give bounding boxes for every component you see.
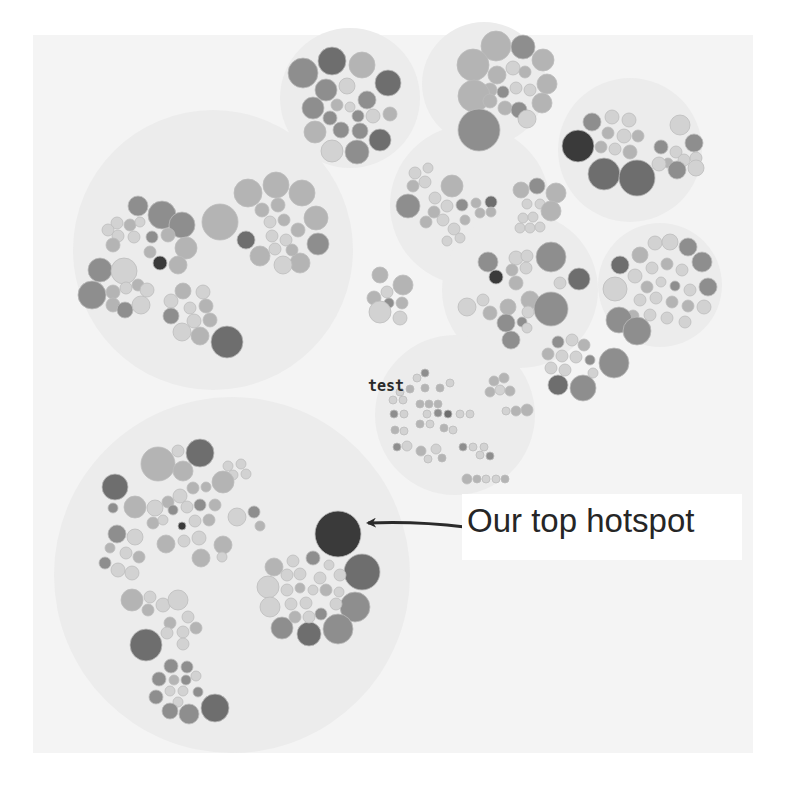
file-circle[interactable] [548, 375, 568, 395]
file-circle[interactable] [399, 396, 407, 404]
file-circle[interactable] [217, 552, 227, 562]
file-circle[interactable] [263, 172, 289, 198]
file-circle[interactable] [400, 410, 408, 418]
file-circle[interactable] [456, 199, 468, 211]
file-circle[interactable] [271, 198, 285, 212]
file-circle[interactable] [632, 130, 644, 142]
file-circle[interactable] [532, 49, 554, 71]
file-circle[interactable] [106, 285, 120, 299]
file-circle[interactable] [518, 110, 536, 128]
file-circle[interactable] [556, 350, 568, 362]
file-circle[interactable] [105, 543, 115, 553]
file-circle[interactable] [692, 252, 712, 272]
file-circle[interactable] [662, 234, 678, 250]
file-circle[interactable] [228, 508, 246, 526]
file-circle[interactable] [520, 262, 532, 274]
file-circle[interactable] [522, 306, 534, 318]
file-circle[interactable] [554, 277, 566, 289]
file-circle[interactable] [130, 629, 162, 661]
file-circle[interactable] [135, 217, 145, 227]
file-circle[interactable] [442, 236, 452, 246]
file-circle[interactable] [570, 375, 596, 401]
file-circle[interactable] [291, 223, 305, 237]
file-circle[interactable] [99, 557, 111, 569]
file-circle[interactable] [186, 439, 214, 467]
file-circle[interactable] [469, 443, 477, 451]
file-circle[interactable] [542, 348, 554, 360]
file-circle[interactable] [634, 294, 646, 306]
file-circle[interactable] [419, 176, 431, 188]
file-circle[interactable] [255, 521, 265, 531]
file-circle[interactable] [603, 277, 627, 301]
file-circle[interactable] [505, 386, 515, 396]
file-circle[interactable] [266, 230, 278, 242]
file-circle[interactable] [632, 247, 648, 263]
file-circle[interactable] [506, 61, 520, 75]
file-circle[interactable] [192, 531, 206, 545]
file-circle[interactable] [688, 160, 704, 176]
file-circle[interactable] [120, 282, 132, 294]
file-circle[interactable] [144, 591, 156, 603]
file-circle[interactable] [133, 551, 145, 563]
file-circle[interactable] [444, 410, 452, 418]
file-circle[interactable] [300, 597, 312, 609]
file-circle[interactable] [193, 687, 203, 697]
file-circle[interactable] [182, 611, 194, 623]
file-circle[interactable] [191, 671, 201, 681]
file-circle[interactable] [358, 91, 376, 109]
file-circle[interactable] [679, 238, 697, 256]
file-circle[interactable] [393, 311, 407, 325]
file-circle[interactable] [661, 258, 673, 270]
file-circle[interactable] [172, 445, 184, 457]
file-circle[interactable] [349, 52, 375, 78]
file-circle[interactable] [248, 506, 260, 518]
file-circle[interactable] [297, 622, 321, 646]
file-circle[interactable] [668, 161, 686, 179]
file-circle[interactable] [352, 110, 364, 122]
file-circle[interactable] [500, 299, 516, 315]
file-circle[interactable] [471, 198, 481, 208]
file-circle[interactable] [457, 49, 489, 81]
file-circle[interactable] [334, 587, 344, 597]
file-circle[interactable] [460, 215, 470, 225]
file-circle[interactable] [676, 264, 688, 276]
file-circle[interactable] [456, 410, 464, 418]
file-circle[interactable] [178, 686, 188, 696]
file-circle[interactable] [670, 115, 690, 135]
file-circle[interactable] [164, 294, 178, 308]
file-circle[interactable] [375, 70, 401, 96]
file-circle[interactable] [344, 554, 380, 590]
file-circle[interactable] [192, 549, 210, 567]
file-circle[interactable] [323, 111, 337, 125]
file-circle[interactable] [315, 79, 337, 101]
file-circle[interactable] [429, 192, 441, 204]
file-circle[interactable] [436, 384, 444, 392]
file-circle[interactable] [255, 203, 269, 217]
file-circle[interactable] [178, 522, 186, 530]
file-circle[interactable] [177, 626, 189, 638]
file-circle[interactable] [682, 300, 694, 312]
file-circle[interactable] [237, 231, 255, 249]
file-circle[interactable] [562, 130, 594, 162]
file-circle[interactable] [201, 694, 229, 722]
file-circle[interactable] [475, 208, 485, 218]
file-circle[interactable] [511, 406, 521, 416]
file-circle[interactable] [209, 499, 221, 511]
file-circle[interactable] [287, 555, 299, 567]
file-circle[interactable] [189, 515, 201, 527]
file-circle[interactable] [446, 379, 454, 387]
file-circle[interactable] [459, 443, 467, 451]
file-circle[interactable] [485, 196, 497, 208]
file-circle[interactable] [393, 443, 401, 451]
file-circle[interactable] [532, 93, 552, 113]
file-circle[interactable] [644, 309, 656, 321]
file-circle[interactable] [120, 547, 132, 559]
file-circle[interactable] [323, 614, 353, 644]
file-circle[interactable] [199, 299, 213, 313]
file-circle[interactable] [498, 101, 512, 115]
file-circle[interactable] [108, 503, 118, 513]
file-circle[interactable] [513, 182, 529, 198]
file-circle[interactable] [181, 661, 193, 673]
file-circle[interactable] [552, 336, 564, 348]
file-circle[interactable] [522, 199, 532, 209]
